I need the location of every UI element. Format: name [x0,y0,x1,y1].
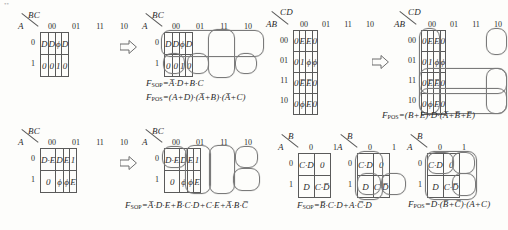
implies-arrow-3 [120,156,137,170]
cell-r0c0[interactable]: D·E [41,149,56,171]
kmap-8-grid: C·D 0 D C·D̅ [357,153,390,198]
kmap-8-row-variable: A [337,142,343,152]
kmap-9-row-variable: A [407,142,413,152]
table-row: 0 ϕ ϕ E [41,171,77,193]
cell-r1c3[interactable]: 0 [61,55,69,77]
kmap-2-col-headers: 00 01 11 10 [164,22,260,31]
kmap-9-col-headers: 0 1 [427,143,475,152]
cell-r1c1[interactable]: 0 [48,55,56,77]
kmap-1-grid: D D ϕ D 0 0 1 0 [40,32,69,77]
cell-r3c3[interactable]: 0 [312,94,318,115]
kmap-7-col-variable: B [288,131,294,141]
kmap-3-col-headers: 00 01 11 10 [293,20,381,29]
cell-r1c0[interactable]: D [358,176,374,198]
kmap-9-grid: C·D 0 D C·D̅ [427,153,460,198]
cell-r0c1[interactable]: 0 [314,154,330,176]
table-row: 0 E̅ E̅ 0 [294,73,318,94]
group-oval-col11 [208,29,235,78]
cell-r1c0[interactable]: 0 [41,55,49,77]
formula-2-pos-body: =(B+E)·D·(A̅+B̅+E̅) [399,110,475,120]
cell-r1c1[interactable]: 0 [172,55,180,77]
table-row: D D ϕ D [165,33,193,55]
kmap-5-col-variable: BC [28,126,40,136]
group-oval-one [235,146,258,168]
scan-artifact: •• [4,0,9,8]
cell-r0c3[interactable]: D [185,33,193,55]
cell-r0c0[interactable]: C·D [358,154,374,176]
formula-4-sop-subscript: SOP [303,204,314,210]
cell-r1c3[interactable]: ϕ [440,52,446,73]
table-row: 0 1 ϕ ϕ [294,52,318,73]
kmap-2-row-headers: 0 1 [142,32,162,74]
cell-r1c0[interactable]: 0 [165,171,180,193]
kmap-9-row-headers: 0 1 [407,153,425,195]
cell-r0c3[interactable]: 1 [194,149,201,171]
table-row: 0 0 1 0 [165,55,193,77]
table-row: C·D 0 [428,154,460,176]
cell-r1c1[interactable]: C·D̅ [373,176,389,198]
cell-r1c0[interactable]: 0 [41,171,56,193]
kmap-4-col-headers: 00 01 11 10 [421,20,508,29]
cell-r0c3[interactable]: 0 [312,31,318,52]
formula-2-pos: FPOS=(B+E)·D·(A̅+B̅+E̅) [382,110,475,120]
worksheet-page: •• BC A 00 01 11 10 0 1 D D ϕ D 0 [0,0,508,230]
group-oval-col11 [209,145,235,194]
cell-r0c0[interactable]: D·E [165,149,180,171]
group-oval-c10-lower [486,68,507,114]
cell-r1c3[interactable]: 0 [185,55,193,77]
kmap-5-row-headers: 0 1 [18,148,38,190]
cell-r0c0[interactable]: C·D [428,154,444,176]
kmap-2-col-variable: BC [152,10,164,20]
cell-r0c1[interactable]: D [172,33,180,55]
cell-r1c3[interactable]: ϕ [312,52,318,73]
table-row: D D ϕ D [41,33,69,55]
kmap-9-col-variable: B [417,131,423,141]
cell-r0c1[interactable]: 0 [443,154,459,176]
table-row: 0 1 ϕ ϕ [422,52,446,73]
cell-r1c0[interactable]: D [428,176,444,198]
cell-r1c1[interactable]: ϕ [180,171,188,193]
cell-r2c3[interactable]: 0 [312,73,318,94]
cell-r0c1[interactable]: D [56,149,64,171]
table-row: D C·D̅ [299,176,331,198]
formula-1-pos-subscript: POS [152,96,163,102]
kmap-4-grid: 0 E E 0 0 1 ϕ ϕ 0 E̅ E̅ 0 0 ϕ E 0 [421,30,446,115]
cell-r1c1[interactable]: C·D̅ [443,176,459,198]
kmap-5-col-headers: 00 01 11 10 [40,138,136,147]
table-row: 0 E̅ E̅ 0 [422,73,446,94]
kmap-8-col-variable: B [347,131,353,141]
table-row: C·D 0 [358,154,390,176]
cell-r0c3[interactable]: 0 [440,31,446,52]
table-row: 0 0 1 0 [41,55,69,77]
kmap-6-col-variable: BC [152,126,164,136]
cell-r1c1[interactable]: C·D̅ [314,176,330,198]
kmap-4-col-variable: CD [408,7,421,17]
kmap-8-row-headers: 0 1 [337,153,355,195]
cell-r0c0[interactable]: C·D [299,154,315,176]
cell-r1c0[interactable]: D [299,176,315,198]
formula-1-sop-subscript: SOP [152,82,163,88]
cell-r0c3[interactable]: D [61,33,69,55]
cell-r0c0[interactable]: D [165,33,173,55]
cell-r1c1[interactable]: ϕ [56,171,64,193]
cell-r1c3[interactable]: E [70,171,77,193]
cell-r2c3[interactable]: 0 [440,73,446,94]
cell-r0c1[interactable]: D [180,149,188,171]
kmap-7-row-headers: 0 1 [278,153,296,195]
kmap-6-row-variable: A [142,137,148,147]
cell-r0c1[interactable]: D [48,33,56,55]
cell-r0c1[interactable]: 0 [373,154,389,176]
cell-r0c0[interactable]: D [41,33,49,55]
cell-r0c3[interactable]: 1 [70,149,77,171]
cell-r1c3[interactable]: E [194,171,201,193]
kmap-8-col-headers: 0 1 [357,143,405,152]
table-row: D C·D̅ [428,176,460,198]
formula-5-pos-body: =D·(B̅+C̅)·(A+C) [425,199,491,209]
implies-arrow-2 [372,55,389,69]
kmap-3-grid: 0 E E 0 0 1 ϕ ϕ 0 E̅ E̅ 0 0 ϕ E 0 [293,30,318,115]
group-oval-zero-c3 [235,53,257,74]
group-oval-e-bottom [233,168,260,191]
formula-5-pos-subscript: POS [414,203,425,209]
cell-r1c0[interactable]: 0 [165,55,173,77]
kmap-4-row-variable: AB [394,19,405,29]
